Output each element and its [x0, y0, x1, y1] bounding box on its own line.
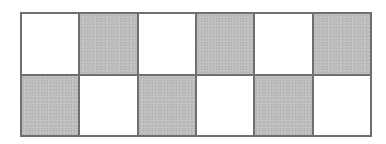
unshaded-cell-r1-c1 — [22, 14, 78, 74]
unshaded-cell-r1-c5 — [255, 14, 311, 74]
unshaded-cell-r1-c3 — [139, 14, 195, 74]
shaded-cell-r2-c1 — [22, 76, 78, 136]
shaded-cell-r1-c4 — [197, 14, 253, 74]
unshaded-cell-r2-c6 — [314, 76, 370, 136]
shaded-cell-r2-c3 — [139, 76, 195, 136]
checkerboard-grid — [20, 12, 372, 137]
shaded-cell-r2-c5 — [255, 76, 311, 136]
shaded-cell-r1-c6 — [314, 14, 370, 74]
shaded-cell-r1-c2 — [80, 14, 136, 74]
unshaded-cell-r2-c4 — [197, 76, 253, 136]
unshaded-cell-r2-c2 — [80, 76, 136, 136]
